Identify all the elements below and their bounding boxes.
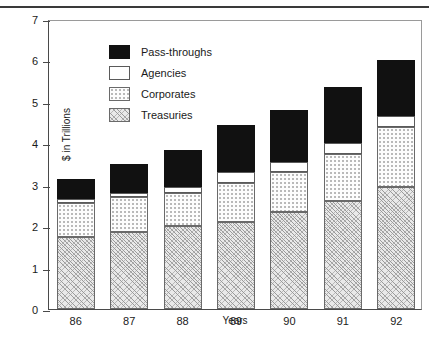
bar-segment-pass-throughs[interactable] bbox=[110, 164, 148, 193]
bar-segment-treasuries[interactable] bbox=[324, 201, 362, 309]
y-axis-tick bbox=[43, 311, 50, 312]
y-axis-tick-label: 6 bbox=[12, 56, 38, 67]
x-axis-title: Years bbox=[48, 315, 422, 326]
y-axis-tick bbox=[43, 104, 50, 105]
bar-segment-corporates[interactable] bbox=[164, 193, 202, 226]
y-axis-tick-label: 3 bbox=[12, 181, 38, 192]
legend-swatch-icon bbox=[109, 45, 130, 59]
bar-segment-agencies[interactable] bbox=[377, 116, 415, 126]
stacked-bar-chart-figure: $ in Trillions 01234567 86878889909192 P… bbox=[0, 0, 429, 353]
legend-swatch-icon bbox=[109, 87, 130, 101]
y-axis-tick-label: 7 bbox=[12, 15, 38, 26]
plot-area: $ in Trillions 01234567 86878889909192 P… bbox=[48, 20, 422, 310]
bar-segment-corporates[interactable] bbox=[110, 197, 148, 232]
bar-group[interactable] bbox=[270, 19, 308, 309]
legend-item-label: Treasuries bbox=[141, 109, 193, 121]
bar-segment-corporates[interactable] bbox=[377, 127, 415, 187]
bar-segment-treasuries[interactable] bbox=[217, 222, 255, 309]
bar-segment-treasuries[interactable] bbox=[164, 226, 202, 309]
bar-segment-pass-throughs[interactable] bbox=[324, 87, 362, 143]
bar-segment-pass-throughs[interactable] bbox=[57, 179, 95, 200]
legend-item[interactable]: Agencies bbox=[109, 64, 212, 82]
y-axis-tick bbox=[43, 62, 50, 63]
legend-swatch-icon bbox=[109, 108, 130, 122]
bar-segment-pass-throughs[interactable] bbox=[164, 150, 202, 187]
y-axis-tick bbox=[43, 21, 50, 22]
legend-item[interactable]: Treasuries bbox=[109, 106, 212, 124]
bar-group[interactable] bbox=[217, 19, 255, 309]
bar-group[interactable] bbox=[324, 19, 362, 309]
legend-item[interactable]: Pass-throughs bbox=[109, 43, 212, 61]
legend-item-label: Pass-throughs bbox=[141, 46, 212, 58]
bar-segment-treasuries[interactable] bbox=[270, 212, 308, 309]
y-axis-tick-label: 5 bbox=[12, 98, 38, 109]
y-axis-tick-label: 4 bbox=[12, 139, 38, 150]
header-rule bbox=[0, 6, 429, 8]
bar-segment-treasuries[interactable] bbox=[377, 187, 415, 309]
bar-group[interactable] bbox=[57, 19, 95, 309]
y-axis-tick bbox=[43, 228, 50, 229]
bar-segment-agencies[interactable] bbox=[110, 193, 148, 197]
bar-segment-corporates[interactable] bbox=[324, 154, 362, 202]
y-axis-tick-label: 1 bbox=[12, 264, 38, 275]
bar-segment-treasuries[interactable] bbox=[110, 232, 148, 309]
legend-item-label: Corporates bbox=[141, 88, 195, 100]
bar-segment-pass-throughs[interactable] bbox=[217, 125, 255, 173]
y-axis-tick bbox=[43, 270, 50, 271]
bar-segment-corporates[interactable] bbox=[217, 183, 255, 222]
bar-segment-agencies[interactable] bbox=[324, 143, 362, 153]
bar-group[interactable] bbox=[377, 19, 415, 309]
legend-item-label: Agencies bbox=[141, 67, 186, 79]
y-axis-tick bbox=[43, 145, 50, 146]
legend-swatch-icon bbox=[109, 66, 130, 80]
y-axis-tick-label: 2 bbox=[12, 222, 38, 233]
bar-segment-pass-throughs[interactable] bbox=[270, 110, 308, 162]
y-axis-tick bbox=[43, 187, 50, 188]
bar-segment-agencies[interactable] bbox=[57, 199, 95, 203]
bar-segment-corporates[interactable] bbox=[270, 172, 308, 211]
bar-segment-treasuries[interactable] bbox=[57, 237, 95, 310]
chart-legend: Pass-throughsAgenciesCorporatesTreasurie… bbox=[109, 43, 212, 127]
bar-segment-agencies[interactable] bbox=[217, 172, 255, 182]
bar-segment-agencies[interactable] bbox=[270, 162, 308, 172]
legend-item[interactable]: Corporates bbox=[109, 85, 212, 103]
bar-segment-agencies[interactable] bbox=[164, 187, 202, 193]
y-axis-tick-label: 0 bbox=[12, 305, 38, 316]
bar-segment-corporates[interactable] bbox=[57, 203, 95, 236]
bar-segment-pass-throughs[interactable] bbox=[377, 60, 415, 116]
